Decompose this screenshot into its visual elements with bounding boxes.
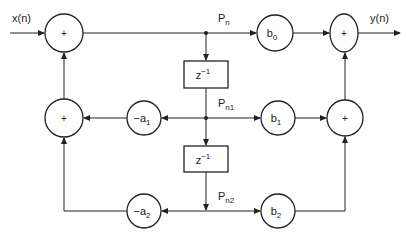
plus-symbol: +: [61, 28, 67, 39]
node-label-pn: Pn: [218, 12, 230, 27]
junction-pn: [204, 31, 208, 35]
delay-block-1: z−1: [184, 61, 228, 88]
wire-b2-to-adder: [295, 137, 345, 211]
plus-symbol: +: [341, 28, 347, 39]
gain-b1: b1: [261, 101, 295, 135]
gain-a1: −a1: [127, 101, 161, 135]
node-label-pn1: Pn1: [218, 97, 235, 112]
adder-feedforward: +: [327, 100, 363, 136]
gain-b2: b2: [261, 194, 295, 228]
plus-symbol: +: [342, 113, 348, 124]
gain-a2: −a2: [127, 194, 161, 228]
wire-a2-to-adder: [64, 138, 127, 211]
filter-block-diagram: + + + + z−1 z−1 b0 b1 b2 −a1 −a2: [0, 0, 406, 245]
gain-b0: b0: [257, 15, 293, 51]
junction-pn1: [204, 116, 208, 120]
node-label-pn2: Pn2: [218, 190, 235, 205]
input-label: x(n): [12, 12, 31, 24]
delay-block-2: z−1: [184, 146, 228, 172]
plus-symbol: +: [61, 113, 67, 124]
adder-feedback: +: [45, 99, 83, 137]
adder-input: +: [45, 14, 83, 52]
adder-output: +: [330, 14, 358, 52]
output-label: y(n): [370, 12, 389, 24]
